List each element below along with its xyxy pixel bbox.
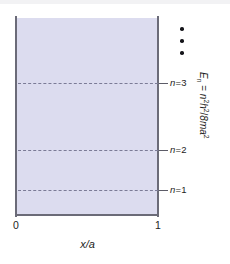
level-value-n2: 2 [181, 144, 186, 155]
ellipsis-dot-3-icon [180, 51, 184, 55]
x-tick-label-right: 1 [155, 219, 161, 231]
energy-symbol: E [198, 72, 209, 79]
x-axis-line [15, 214, 159, 216]
level-value-n3: 3 [181, 77, 186, 88]
energy-level-diagram: n=3 n=2 n=1 En = n2h2/8ma2 0 1 x/a [0, 0, 230, 264]
energy-denominator: 8ma [198, 115, 209, 134]
x-tick-right [158, 208, 159, 215]
potential-well-region [17, 18, 158, 215]
energy-equals: = [198, 85, 209, 91]
scan-band [0, 0, 230, 4]
ellipsis-dot-2-icon [180, 39, 184, 43]
energy-axis-label: En = n2h2/8ma2 [198, 72, 208, 182]
ellipsis-dot-1-icon [180, 27, 184, 31]
x-tick-left [16, 208, 17, 215]
energy-level-label-n3: n=3 [170, 77, 187, 88]
well-wall-left [15, 16, 17, 217]
x-tick-label-left: 0 [13, 219, 19, 231]
energy-subscript: n [196, 79, 203, 83]
energy-level-line-n1 [18, 190, 158, 191]
well-wall-right [157, 16, 159, 217]
energy-level-line-n3 [18, 83, 158, 84]
energy-level-line-n2 [18, 150, 158, 151]
energy-level-tick-n1 [159, 190, 168, 191]
energy-level-label-n2: n=2 [170, 144, 187, 155]
energy-level-label-n1: n=1 [170, 184, 187, 195]
energy-level-tick-n3 [159, 83, 168, 84]
level-value-n1: 1 [181, 184, 186, 195]
x-axis-title: x/a [0, 238, 175, 250]
energy-level-tick-n2 [159, 150, 168, 151]
energy-denominator-exponent: 2 [203, 135, 210, 139]
